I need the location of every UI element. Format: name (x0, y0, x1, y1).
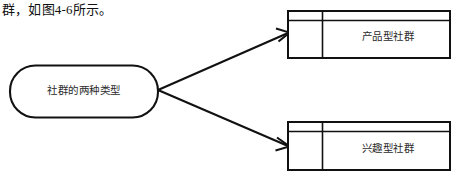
diagram-canvas: 群，如图4-6所示。 社群的两种类型 产品型社群 兴 (0, 0, 460, 181)
node-source-label: 社群的两种类型 (10, 84, 158, 97)
node-product-label: 产品型社群 (326, 30, 450, 43)
node-interest-label: 兴趣型社群 (326, 142, 450, 155)
connector-to-product (158, 29, 290, 91)
connector-to-interest (158, 90, 290, 151)
